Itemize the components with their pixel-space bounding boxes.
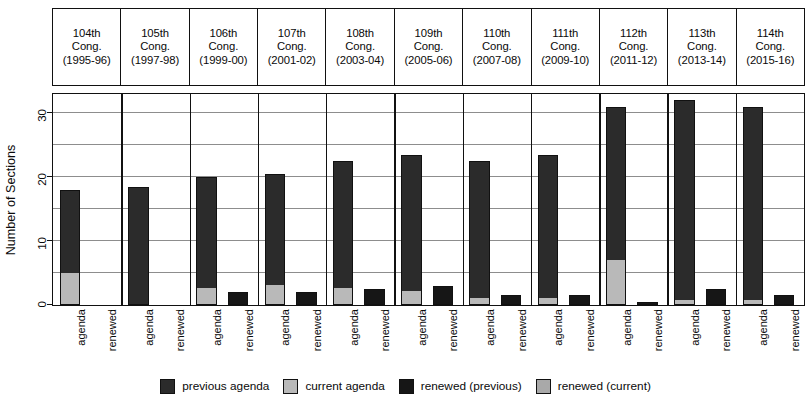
bar-segment [675, 300, 693, 304]
congress-header-years: (2011-12) [610, 54, 657, 67]
bar-segment [402, 156, 420, 292]
column-separator [190, 94, 191, 305]
bar-segment [638, 303, 656, 304]
bar-renewed[interactable] [569, 295, 589, 305]
chart-legend: previous agendacurrent agendarenewed (pr… [0, 374, 811, 398]
bar-segment [539, 298, 557, 304]
legend-swatch [160, 379, 175, 394]
bar-agenda[interactable] [674, 100, 694, 305]
bar-segment [197, 288, 215, 304]
congress-header-word: Cong. [72, 40, 102, 53]
bar-renewed[interactable] [228, 292, 248, 305]
bar-agenda[interactable] [196, 177, 216, 305]
legend-label: previous agenda [182, 379, 269, 393]
congress-header-cell: 104thCong.(1995-96) [53, 9, 121, 85]
bar-segment [61, 273, 79, 304]
x-axis-tick-labels: agendarenewedagendarenewedagendareneweda… [52, 307, 805, 365]
x-tick-label-renewed: renewed [106, 309, 118, 351]
legend-label: current agenda [305, 379, 384, 393]
bar-renewed[interactable] [706, 289, 726, 305]
bar-segment [607, 108, 625, 260]
bar-agenda[interactable] [469, 161, 489, 305]
x-tick-label-renewed: renewed [447, 309, 459, 351]
bar-segment [197, 178, 215, 288]
congress-header-years: (1997-98) [131, 54, 179, 67]
congress-header-word: Cong. [345, 40, 375, 53]
bar-agenda[interactable] [128, 187, 148, 305]
x-tick-label-agenda: agenda [757, 309, 769, 346]
congress-header-word: Cong. [482, 40, 512, 53]
legend-item[interactable]: previous agenda [160, 379, 269, 394]
bar-agenda[interactable] [333, 161, 353, 305]
congress-header-congress: 111th [552, 27, 578, 40]
bar-agenda[interactable] [401, 155, 421, 305]
bar-segment [129, 188, 147, 304]
column-separator [121, 94, 122, 305]
congress-header-years: (2013-14) [678, 54, 726, 67]
congress-header-word: Cong. [755, 40, 785, 53]
x-tick-label-agenda: agenda [75, 309, 87, 346]
bar-renewed[interactable] [364, 289, 384, 305]
bar-segment [775, 296, 793, 304]
x-tick-label-agenda: agenda [552, 309, 564, 346]
x-tick-label-agenda: agenda [689, 309, 701, 346]
congress-header-cell: 108thCong.(2003-04) [326, 9, 394, 85]
congress-header-cell: 107thCong.(2001-02) [258, 9, 326, 85]
x-tick-label-renewed: renewed [516, 309, 528, 351]
bar-segment [470, 298, 488, 304]
y-axis: 0102030 [0, 93, 52, 306]
bar-segment [607, 260, 625, 304]
congress-header-word: Cong. [140, 40, 170, 53]
chart-root: 104thCong.(1995-96)105thCong.(1997-98)10… [0, 0, 811, 420]
legend-swatch [536, 379, 551, 394]
bar-segment [266, 285, 284, 304]
bar-agenda[interactable] [743, 107, 763, 305]
congress-header-congress: 112th [620, 27, 647, 40]
congress-header-word: Cong. [550, 40, 580, 53]
y-tick-label: 10 [36, 237, 48, 250]
column-separator [736, 94, 737, 305]
bar-agenda[interactable] [60, 190, 80, 305]
x-tick-label-agenda: agenda [348, 309, 360, 346]
congress-header-congress: 108th [346, 27, 374, 40]
column-separator [326, 94, 327, 305]
legend-label: renewed (previous) [421, 379, 522, 393]
congress-header-cell: 113thCong.(2013-14) [668, 9, 736, 85]
congress-header-congress: 104th [73, 27, 101, 40]
bar-segment [470, 162, 488, 298]
congress-header-word: Cong. [414, 40, 444, 53]
bar-renewed[interactable] [637, 302, 657, 305]
x-tick-label-agenda: agenda [143, 309, 155, 346]
y-tick-label: 30 [36, 109, 48, 122]
congress-header-cell: 109thCong.(2005-06) [395, 9, 463, 85]
column-separator [463, 94, 464, 305]
x-tick-label-agenda: agenda [621, 309, 633, 346]
plot-area [52, 93, 805, 306]
congress-header-cell: 106thCong.(1999-00) [190, 9, 258, 85]
congress-header-table: 104thCong.(1995-96)105thCong.(1997-98)10… [52, 8, 805, 86]
bar-agenda[interactable] [538, 155, 558, 305]
congress-header-years: (1999-00) [199, 54, 247, 67]
bar-segment [502, 296, 520, 304]
congress-header-congress: 114th [757, 27, 784, 40]
y-tick-label: 20 [36, 173, 48, 186]
bar-segment [365, 290, 383, 304]
x-tick-label-renewed: renewed [379, 309, 391, 351]
x-tick-label-agenda: agenda [211, 309, 223, 346]
bar-renewed[interactable] [501, 295, 521, 305]
x-tick-label-renewed: renewed [652, 309, 664, 351]
bar-renewed[interactable] [433, 286, 453, 305]
congress-header-word: Cong. [687, 40, 717, 53]
bar-segment [266, 175, 284, 285]
congress-header-congress: 109th [415, 27, 443, 40]
bar-agenda[interactable] [606, 107, 626, 305]
x-tick-label-renewed: renewed [789, 309, 801, 351]
congress-header-cell: 114thCong.(2015-16) [737, 9, 804, 85]
bar-renewed[interactable] [774, 295, 794, 305]
bar-segment [675, 101, 693, 299]
legend-item[interactable]: renewed (current) [536, 379, 651, 394]
bar-agenda[interactable] [265, 174, 285, 305]
bar-renewed[interactable] [296, 292, 316, 305]
legend-item[interactable]: renewed (previous) [399, 379, 522, 394]
legend-item[interactable]: current agenda [283, 379, 384, 394]
